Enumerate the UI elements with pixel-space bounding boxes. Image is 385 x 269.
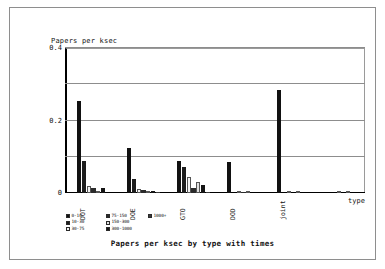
legend-swatch <box>106 214 110 218</box>
bar <box>227 162 231 193</box>
bar <box>201 185 205 193</box>
bar <box>296 191 300 193</box>
bar-group <box>165 48 215 193</box>
x-axis-tick: DOD <box>229 208 237 220</box>
bar <box>132 179 136 194</box>
legend-swatch <box>66 221 70 225</box>
bar <box>277 90 281 193</box>
legend-item[interactable]: 300-1000 <box>106 226 146 232</box>
chart-frame: Papers per ksec 0.40.20 DOTDOEGTODODjoin… <box>9 7 376 260</box>
chart-title: Papers per ksec by type with times <box>10 239 375 248</box>
chart-legend: 0-1075-1501000+10-30150-30030-75300-1000 <box>66 213 216 232</box>
bar <box>246 191 250 193</box>
legend-label: 10-30 <box>72 220 85 224</box>
bar-group <box>65 48 115 193</box>
legend-spacer <box>148 226 216 232</box>
bar <box>141 190 145 193</box>
bar <box>151 191 155 193</box>
bar <box>241 192 245 193</box>
bar <box>77 101 81 193</box>
plot-area <box>65 48 365 193</box>
bar <box>191 188 195 193</box>
legend-swatch <box>66 227 70 231</box>
y-axis-tick: 0.2 <box>49 117 62 125</box>
bar <box>337 191 341 193</box>
y-axis-tick: 0 <box>58 189 62 197</box>
bar <box>91 188 95 193</box>
y-axis-tick: 0.4 <box>49 44 62 52</box>
bar <box>177 161 181 193</box>
bar <box>127 148 131 193</box>
legend-swatch <box>66 214 70 218</box>
legend-swatch <box>106 227 110 231</box>
legend-item[interactable]: 30-75 <box>66 226 104 232</box>
bar <box>182 167 186 193</box>
bar-group <box>215 48 265 193</box>
bar <box>206 192 210 193</box>
legend-swatch <box>148 214 152 218</box>
bar-group <box>315 48 365 193</box>
bar <box>237 191 241 193</box>
bar <box>137 189 141 193</box>
bar <box>346 191 350 193</box>
bar <box>87 186 91 193</box>
bar <box>82 161 86 193</box>
legend-swatch <box>106 221 110 225</box>
legend-label: 30-75 <box>72 227 85 231</box>
legend-label: 1000+ <box>154 214 167 218</box>
x-axis-label: type <box>348 197 365 205</box>
x-axis-tick: joint <box>279 200 287 220</box>
legend-label: 75-150 <box>112 214 127 218</box>
bar <box>187 177 191 193</box>
legend-label: 0-10 <box>72 214 82 218</box>
bar-group <box>265 48 315 193</box>
bar <box>96 191 100 193</box>
legend-label: 300-1000 <box>112 227 132 231</box>
legend-label: 150-300 <box>112 220 130 224</box>
bar-group <box>115 48 165 193</box>
bar <box>156 192 160 193</box>
bar <box>101 188 105 193</box>
bar <box>196 182 200 193</box>
bar <box>146 191 150 193</box>
chart-page: Papers per ksec 0.40.20 DOTDOEGTODODjoin… <box>0 0 385 269</box>
bar <box>287 191 291 193</box>
y-axis-ticks: 0.40.20 <box>16 48 62 193</box>
